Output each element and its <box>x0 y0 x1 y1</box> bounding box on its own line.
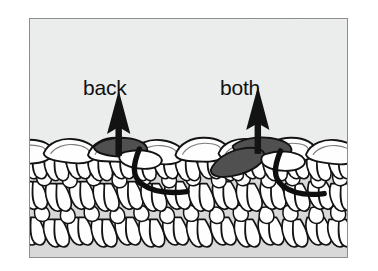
back-arrow-shaft <box>115 126 121 156</box>
label-both: both <box>220 77 260 98</box>
both-arrow-shaft <box>255 122 261 154</box>
both-adjacent-white-loop <box>261 151 305 170</box>
figure-frame: back both <box>29 18 348 258</box>
fabric-row-middle <box>30 182 347 212</box>
crochet-diagram-svg <box>30 19 347 257</box>
figure-container: back both <box>0 0 378 271</box>
label-back: back <box>83 77 127 98</box>
crochet-fabric <box>30 136 347 257</box>
